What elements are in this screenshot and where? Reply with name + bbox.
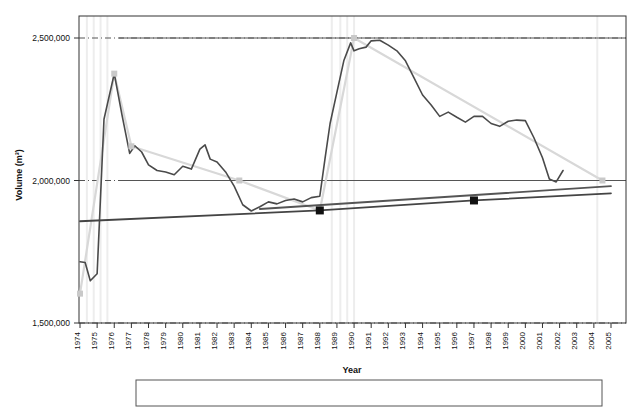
legend-box <box>136 380 602 406</box>
x-tick-label: 1991 <box>364 331 373 349</box>
x-tick-label: 1976 <box>107 331 116 349</box>
x-tick-label: 1993 <box>398 331 407 349</box>
x-tick-label: 1982 <box>210 331 219 349</box>
x-tick-label: 1996 <box>450 331 459 349</box>
x-axis-label: Year <box>342 365 362 375</box>
x-tick-label: 1995 <box>433 331 442 349</box>
x-tick-label: 1994 <box>416 331 425 349</box>
x-tick-label: 1988 <box>313 331 322 349</box>
x-tick-label: 1981 <box>193 331 202 349</box>
x-tick-label: 1992 <box>381 331 390 349</box>
x-tick-label: 2000 <box>518 331 527 349</box>
y-tick-label: 1,500,000 <box>32 318 70 328</box>
x-tick-label: 2003 <box>570 331 579 349</box>
x-tick-label: 1986 <box>279 331 288 349</box>
marker-simple-changes <box>236 178 242 184</box>
y-axis-label: Volume (m³) <box>14 149 24 200</box>
x-tick-label: 1975 <box>90 331 99 349</box>
x-tick-label: 2001 <box>535 331 544 349</box>
x-tick-label: 1983 <box>227 331 236 349</box>
marker-simple-changes <box>128 143 134 149</box>
x-tick-label: 2002 <box>553 331 562 349</box>
y-tick-label: 2,500,000 <box>32 33 70 43</box>
y-tick-label: 2,000,000 <box>32 176 70 186</box>
x-tick-label: 1990 <box>347 331 356 349</box>
x-tick-label: 1998 <box>484 331 493 349</box>
x-tick-label: 2005 <box>604 331 613 349</box>
x-tick-label: 1980 <box>176 331 185 349</box>
x-tick-label: 1984 <box>244 331 253 349</box>
x-tick-label: 1989 <box>330 331 339 349</box>
chart-container: 1,500,0002,000,0002,500,000 197419751976… <box>0 0 638 414</box>
x-tick-label: 1974 <box>73 331 82 349</box>
marker-simple-changes <box>351 35 357 41</box>
x-tick-label: 1987 <box>296 331 305 349</box>
chart-legend <box>136 380 602 406</box>
marker-critical-beach-volume <box>470 196 478 204</box>
volume-over-time-chart: 1,500,0002,000,0002,500,000 197419751976… <box>0 0 638 414</box>
x-tick-label: 1985 <box>261 331 270 349</box>
x-tick-label: 1999 <box>501 331 510 349</box>
marker-simple-changes <box>111 71 117 77</box>
x-tick-label: 1977 <box>124 331 133 349</box>
x-tick-label: 1978 <box>142 331 151 349</box>
marker-simple-changes <box>599 178 605 184</box>
x-tick-label: 1997 <box>467 331 476 349</box>
marker-simple-changes <box>77 291 83 297</box>
marker-critical-beach-volume <box>316 206 324 214</box>
x-tick-label: 2004 <box>587 331 596 349</box>
x-tick-label: 1979 <box>159 331 168 349</box>
